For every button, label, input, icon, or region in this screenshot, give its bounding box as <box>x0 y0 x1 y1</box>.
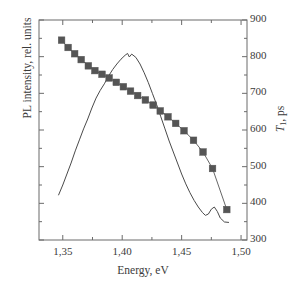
y-axis-right-symbol: T <box>274 126 286 132</box>
axis-ticks <box>39 20 247 240</box>
t1-data-marker <box>113 79 120 86</box>
t1-data-marker <box>92 67 99 74</box>
t1-data-marker <box>150 102 157 109</box>
t1-data-marker <box>209 165 216 172</box>
data-series <box>58 37 230 223</box>
t1-data-marker <box>58 37 65 44</box>
t1-data-marker <box>120 83 127 90</box>
t1-data-marker <box>181 127 188 134</box>
y-right-tick-label: 900 <box>250 12 267 24</box>
x-tick-label: 1,50 <box>221 245 261 257</box>
y-right-tick-label: 500 <box>250 159 267 171</box>
t1-data-marker <box>78 56 85 63</box>
x-tick-label: 1,35 <box>43 245 83 257</box>
t1-data-marker <box>223 206 230 213</box>
x-tick-label: 1,40 <box>102 245 142 257</box>
t1-data-marker <box>142 97 149 104</box>
axes-frame <box>39 20 247 240</box>
t1-data-marker <box>65 44 72 51</box>
y-right-tick-label: 300 <box>250 232 267 244</box>
t1-data-marker <box>172 120 179 127</box>
x-axis-label: Energy, eV <box>39 264 247 276</box>
t1-data-marker <box>106 75 113 82</box>
t1-data-marker <box>127 88 134 95</box>
t1-data-marker <box>157 108 164 115</box>
t1-data-marker <box>165 114 172 121</box>
t1-data-marker <box>200 149 207 156</box>
figure-container: PL intensity, rel. units T1, ps Energy, … <box>0 0 301 290</box>
t1-data-marker <box>190 137 197 144</box>
plot-frame <box>39 20 247 240</box>
y-right-tick-label: 800 <box>250 49 267 61</box>
y-right-tick-label: 600 <box>250 122 267 134</box>
y-axis-right-subscript: 1 <box>279 122 288 126</box>
pl-intensity-curve <box>59 53 229 222</box>
x-tick-label: 1,45 <box>162 245 202 257</box>
y-axis-left-label: PL intensity, rel. units <box>21 0 33 152</box>
y-right-tick-label: 700 <box>250 85 267 97</box>
t1-data-marker <box>71 50 78 57</box>
t1-data-marker <box>99 71 106 78</box>
t1-data-marker <box>134 92 141 99</box>
y-axis-right-units: , ps <box>274 106 286 122</box>
y-axis-right-label: T1, ps <box>274 84 288 154</box>
y-right-tick-label: 400 <box>250 195 267 207</box>
t1-data-marker <box>85 63 92 70</box>
